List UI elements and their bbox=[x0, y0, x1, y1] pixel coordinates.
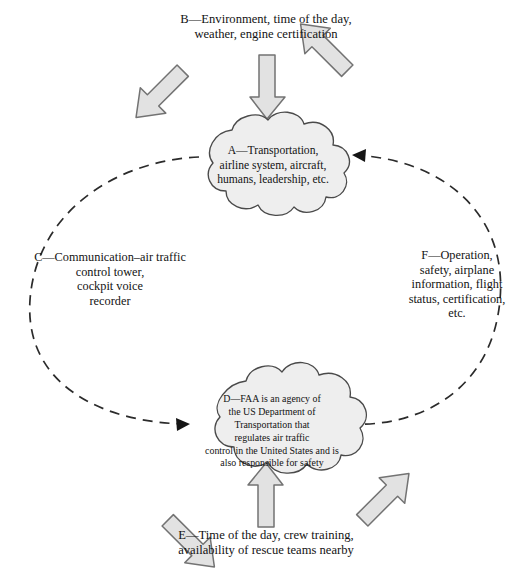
label-e-time-of-day: E—Time of the day, crew training, availa… bbox=[128, 528, 404, 558]
top-left-block-arrow bbox=[123, 58, 195, 130]
bottom-center-block-arrow bbox=[248, 463, 283, 527]
top-center-block-arrow bbox=[250, 55, 285, 119]
bottom-right-block-arrow bbox=[350, 461, 422, 533]
cloud-a-label: A—Transportation, airline system, aircra… bbox=[203, 144, 343, 188]
label-f-operation: F—Operation, safety, airplane informatio… bbox=[396, 248, 518, 321]
cloud-d-label: D—FAA is an agency of the US Department … bbox=[196, 393, 348, 470]
label-b-environment: B—Environment, time of the day, weather,… bbox=[130, 12, 402, 42]
diagram-canvas: B—Environment, time of the day, weather,… bbox=[0, 0, 531, 580]
label-c-communication: C—Communication–air traffic control towe… bbox=[22, 250, 198, 308]
